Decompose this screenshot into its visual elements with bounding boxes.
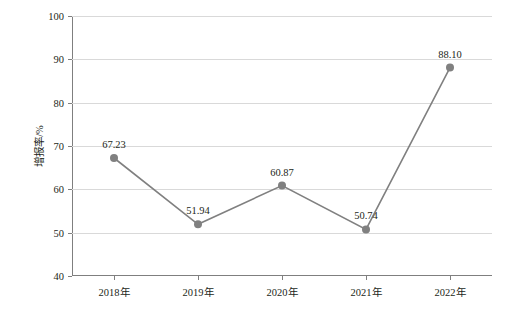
- ytick-label-60: 60: [24, 184, 64, 195]
- data-point-2020: [278, 182, 286, 190]
- data-label-2019: 51.94: [186, 205, 210, 216]
- ytick-label-50: 50: [24, 227, 64, 238]
- series-layer: [72, 16, 492, 276]
- xtick-mark-1: [198, 276, 199, 280]
- data-label-2022: 88.10: [438, 49, 462, 60]
- ytick-label-100: 100: [24, 11, 64, 22]
- xtick-label-2022: 2022年: [415, 284, 485, 299]
- data-point-2022: [446, 64, 454, 72]
- ytick-mark-40: [68, 276, 72, 277]
- xtick-mark-0: [114, 276, 115, 280]
- data-point-2021: [362, 225, 370, 233]
- xtick-mark-4: [450, 276, 451, 280]
- xtick-label-2018: 2018年: [79, 284, 149, 299]
- xtick-mark-3: [366, 276, 367, 280]
- ytick-label-40: 40: [24, 271, 64, 282]
- data-label-2018: 67.23: [102, 139, 126, 150]
- chart-container: 100 90 80 70 60 50 40 2018年 2019年 2020年 …: [0, 0, 528, 314]
- data-point-2019: [194, 220, 202, 228]
- plot-area: 100 90 80 70 60 50 40 2018年 2019年 2020年 …: [72, 16, 492, 276]
- data-label-2021: 50.74: [354, 210, 378, 221]
- xtick-label-2021: 2021年: [331, 284, 401, 299]
- ytick-label-90: 90: [24, 54, 64, 65]
- series-line: [114, 68, 450, 230]
- y-axis-title: 增报率/%: [31, 125, 46, 167]
- xtick-label-2019: 2019年: [163, 284, 233, 299]
- ytick-label-80: 80: [24, 97, 64, 108]
- data-point-2018: [110, 154, 118, 162]
- data-label-2020: 60.87: [270, 167, 294, 178]
- xtick-mark-2: [282, 276, 283, 280]
- xtick-label-2020: 2020年: [247, 284, 317, 299]
